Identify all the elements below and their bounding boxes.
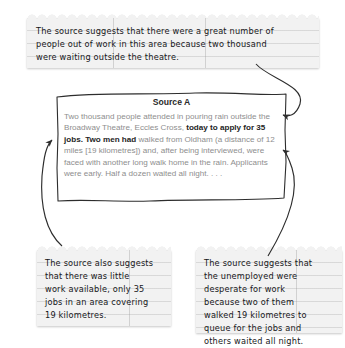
note-bottom-right-text: The source suggests that the unemployed … — [196, 250, 342, 348]
source-a-box: Source A Two thousand people attended in… — [55, 90, 288, 203]
source-a-title: Source A — [55, 97, 288, 107]
note-bottom-left-text: The source also suggests that there was … — [37, 250, 171, 322]
source-a-body: Two thousand people attended in pouring … — [64, 111, 278, 179]
note-top-text: The source suggests that there were a gr… — [27, 18, 319, 64]
note-top[interactable]: The source suggests that there were a gr… — [27, 18, 319, 68]
note-bottom-right[interactable]: The source suggests that the unemployed … — [196, 250, 342, 333]
note-bottom-left[interactable]: The source also suggests that there was … — [37, 250, 171, 326]
